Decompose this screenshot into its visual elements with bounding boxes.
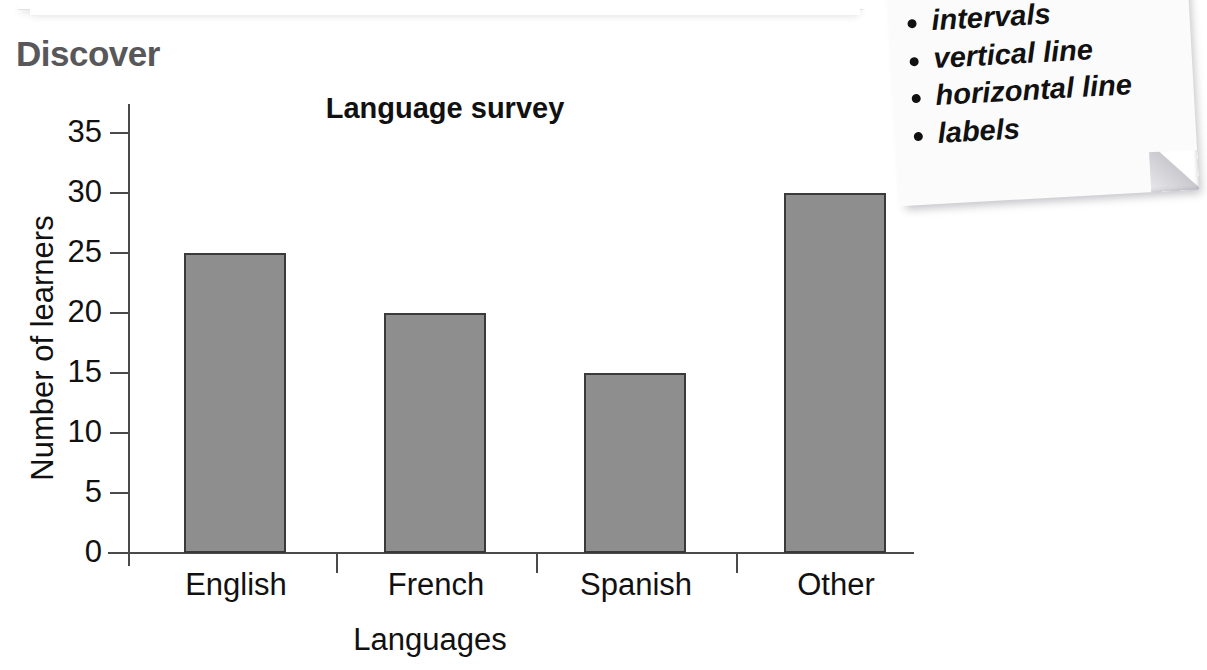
sticky-note-folded-corner [1149, 150, 1199, 193]
bar [784, 193, 886, 553]
y-axis-tick [110, 312, 129, 314]
y-axis-tick [110, 492, 129, 494]
y-axis-tick [110, 252, 129, 254]
x-axis-category-label: Other [736, 568, 936, 602]
sticky-note-list: intervals vertical line horizontal line … [896, 0, 1204, 155]
y-axis-tick [110, 432, 129, 434]
bar [384, 313, 486, 553]
y-axis-title: Number of learners [25, 148, 61, 548]
x-axis-category-label: Spanish [536, 568, 736, 602]
bar [184, 253, 286, 553]
sticky-note: intervals vertical line horizontal line … [887, 0, 1199, 206]
bar-chart: Language survey 05101520253035 EnglishFr… [0, 0, 920, 670]
y-axis-tick [110, 132, 129, 134]
y-axis-tick [110, 192, 129, 194]
chart-title: Language survey [270, 92, 620, 125]
x-axis-title: Languages [280, 622, 580, 658]
y-axis-tick [110, 552, 129, 554]
y-axis-tick [110, 372, 129, 374]
x-axis-category-label: English [136, 568, 336, 602]
y-axis-tick-label: 35 [30, 116, 102, 147]
x-axis-category-label: French [336, 568, 536, 602]
bar [584, 373, 686, 553]
y-axis-vertical-line [128, 104, 130, 566]
